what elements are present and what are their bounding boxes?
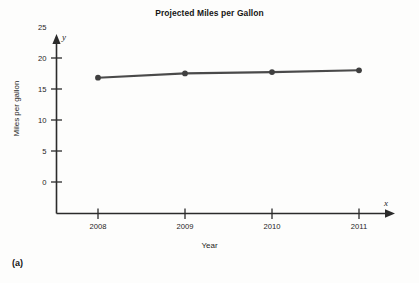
y-axis-variable-label: y [62,32,66,42]
y-tick-label-20: 20 [26,54,47,63]
y-axis-title: Miles per gallon [12,69,21,149]
data-point-2009 [182,71,188,77]
x-tick-label-2011: 2011 [340,222,378,231]
x-axis-title: Year [0,241,419,250]
data-series-line [98,70,359,77]
figure-projected-miles-per-gallon: Projected Miles per Gallon [0,0,419,283]
data-point-markers [95,67,362,80]
y-tick-label-10: 10 [26,116,47,125]
y-tick-label-5: 5 [26,147,47,156]
y-tick-label-0: 0 [26,178,47,187]
x-tick-label-2010: 2010 [253,222,291,231]
data-point-2008 [95,75,101,81]
y-axis [52,34,60,214]
data-point-2010 [269,69,275,75]
x-axis [57,209,396,217]
y-tick-label-25: 25 [26,23,47,32]
y-tick-label-15: 15 [26,85,47,94]
figure-caption: (a) [12,258,23,268]
data-point-2011 [356,67,362,73]
x-axis-variable-label: x [384,198,388,208]
x-tick-label-2008: 2008 [79,222,117,231]
x-tick-label-2009: 2009 [166,222,204,231]
